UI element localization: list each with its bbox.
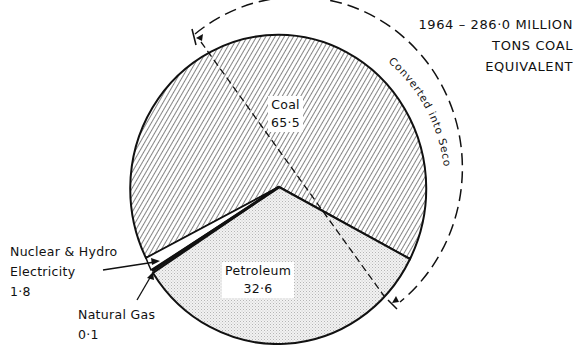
coal-value: 65·5 <box>271 114 300 132</box>
arc-end-tick-top <box>192 29 196 45</box>
gas-value: 0·1 <box>78 325 155 345</box>
gas-name: Natural Gas <box>78 305 155 325</box>
title-line-2: TONS COAL <box>418 35 573 56</box>
petroleum-label: Petroleum 32·6 <box>222 262 294 298</box>
arc-arrow-bottom <box>392 296 399 303</box>
petroleum-name: Petroleum <box>225 262 291 280</box>
title-line-3: EQUIVALENT <box>418 56 573 77</box>
nuclear-line-2: Electricity <box>10 262 118 282</box>
coal-label: Coal 65·5 <box>268 96 303 132</box>
nuclear-line-1: Nuclear & Hydro <box>10 242 118 262</box>
nuclear-value: 1·8 <box>10 282 118 302</box>
chart-title: 1964 – 286·0 MILLION TONS COAL EQUIVALEN… <box>418 14 573 77</box>
arc-arrow-top <box>196 34 203 41</box>
natural-gas-label: Natural Gas 0·1 <box>78 305 155 345</box>
gas-arrowhead <box>147 272 154 280</box>
title-line-1: 1964 – 286·0 MILLION <box>418 14 573 35</box>
coal-name: Coal <box>271 96 300 114</box>
nuclear-hydro-label: Nuclear & Hydro Electricity 1·8 <box>10 242 118 302</box>
gas-leader-line <box>137 276 151 300</box>
petroleum-value: 32·6 <box>225 280 291 298</box>
